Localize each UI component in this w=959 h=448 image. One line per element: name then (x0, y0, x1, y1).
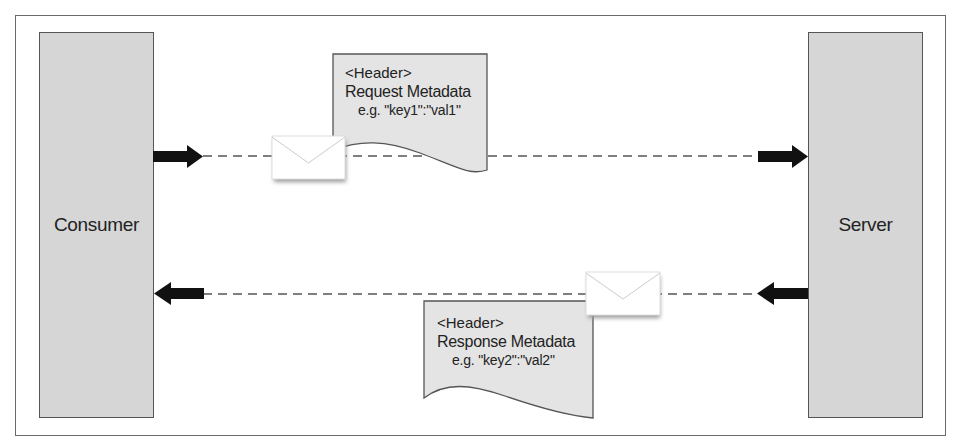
response-note-tag: <Header> (437, 313, 597, 332)
request-note-title: Request Metadata (345, 82, 485, 101)
arrow-right-icon (153, 145, 203, 168)
response-note-example: e.g. "key2":"val2" (437, 351, 597, 370)
arrow-left-icon (757, 282, 808, 305)
arrow-right-icon (758, 145, 808, 168)
envelope-icon (586, 272, 660, 318)
request-note-example: e.g. "key1":"val1" (345, 101, 485, 120)
request-note-tag: <Header> (345, 63, 485, 82)
request-note-text: <Header> Request Metadata e.g. "key1":"v… (345, 63, 485, 120)
response-note-text: <Header> Response Metadata e.g. "key2":"… (437, 313, 597, 370)
arrow-left-icon (154, 282, 204, 305)
envelope-icon (272, 136, 346, 182)
response-note-title: Response Metadata (437, 332, 597, 351)
